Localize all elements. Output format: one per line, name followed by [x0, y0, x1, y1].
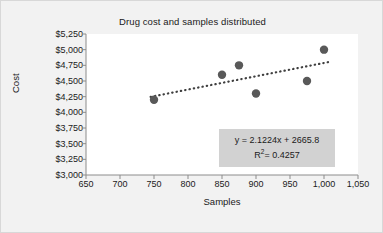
chart-screenshot: Drug cost and samples distributed $3,000… — [0, 0, 383, 233]
y-axis-title: Cost — [10, 73, 21, 93]
x-axis-title: Samples — [86, 196, 358, 207]
r-squared-line: R2= 0.4257 — [221, 146, 333, 161]
scatter-chart: Drug cost and samples distributed $3,000… — [1, 1, 383, 233]
trendline-equation-box: y = 2.1224x + 2665.8 R2= 0.4257 — [219, 129, 335, 167]
r-squared-value: = 0.4257 — [264, 150, 299, 160]
trendline-equation: y = 2.1224x + 2665.8 — [221, 134, 333, 146]
